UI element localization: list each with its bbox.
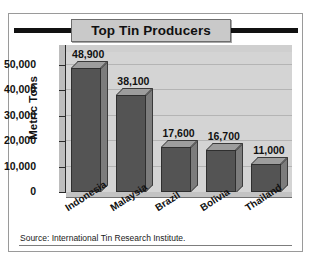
y-axis-tick xyxy=(59,167,66,168)
y-axis-tick-label: 20,000 xyxy=(4,134,36,146)
y-axis-tick-label: 0 xyxy=(30,185,36,197)
y-axis-tick-label: 30,000 xyxy=(4,109,36,121)
y-axis-tick xyxy=(59,192,66,193)
y-axis-tick-label: 10,000 xyxy=(4,160,36,172)
chart-title: Top Tin Producers xyxy=(72,20,230,41)
chart-title-banner: Top Tin Producers xyxy=(71,19,231,42)
source-note: Source: International Tin Research Insti… xyxy=(20,233,185,243)
bar-side-face xyxy=(101,61,108,192)
bar xyxy=(116,95,146,192)
bar-front-face xyxy=(161,147,191,192)
bar-top-face xyxy=(71,61,108,68)
bar-side-face xyxy=(236,143,243,193)
bar-side-face xyxy=(191,140,198,192)
bar-value-label: 11,000 xyxy=(253,144,285,156)
plot-area: 48,90038,10017,60016,70011,000 xyxy=(66,52,292,192)
bar-value-label: 48,900 xyxy=(72,48,104,60)
bar-front-face xyxy=(206,150,236,193)
bar-value-label: 38,100 xyxy=(117,75,149,87)
bar-front-face xyxy=(71,68,101,192)
y-axis-tick xyxy=(59,65,66,66)
bar xyxy=(71,68,101,192)
bar xyxy=(161,147,191,192)
y-axis-line xyxy=(65,45,66,193)
y-axis-tick xyxy=(59,90,66,91)
bar-value-label: 17,600 xyxy=(163,127,195,139)
source-divider xyxy=(19,245,292,246)
bar xyxy=(206,150,236,193)
y-axis-tick xyxy=(59,116,66,117)
bar-value-label: 16,700 xyxy=(208,130,240,142)
chart-figure: Top Tin Producers Metric Tons 48,90038,1… xyxy=(8,13,303,252)
y-axis-tick xyxy=(59,141,66,142)
y-axis-tick-label: 40,000 xyxy=(4,83,36,95)
y-axis-tick-label: 50,000 xyxy=(4,58,36,70)
bar-front-face xyxy=(116,95,146,192)
bar-side-face xyxy=(146,88,153,192)
